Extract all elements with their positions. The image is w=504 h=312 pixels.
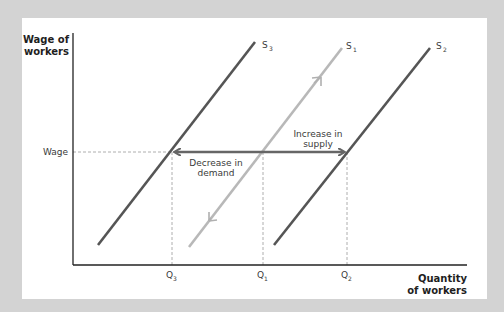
s1-letter: S	[346, 41, 352, 51]
y-axis-label-line1: Wage of	[23, 34, 70, 45]
s2-label: S 2	[436, 41, 447, 53]
q3-tick-label: Q 3	[166, 270, 177, 282]
wage-tick-label: Wage	[43, 147, 69, 157]
s3-subscript: 3	[269, 45, 273, 52]
q1-subscript: 1	[264, 275, 268, 282]
q1-tick-label: Q 1	[257, 270, 268, 282]
decrease-demand-label-line1: Decrease in	[189, 158, 242, 168]
x-axis-label-line2: of workers	[407, 285, 467, 296]
increase-supply-label-line2: supply	[303, 139, 333, 149]
decrease-demand-label-line2: demand	[198, 168, 235, 178]
s2-subscript: 2	[443, 46, 447, 53]
supply-curve-s3	[98, 42, 255, 245]
s2-letter: S	[436, 41, 442, 51]
increase-supply-label-line1: Increase in	[293, 129, 342, 139]
s1-subscript: 1	[353, 46, 357, 53]
q2-subscript: 2	[348, 275, 352, 282]
q2-tick-label: Q 2	[341, 270, 352, 282]
q3-subscript: 3	[173, 275, 177, 282]
s3-label: S 3	[262, 40, 273, 52]
supply-curve-s2	[274, 48, 430, 245]
x-axis-label-line1: Quantity	[418, 273, 467, 284]
s3-letter: S	[262, 40, 268, 50]
s1-label: S 1	[346, 41, 357, 53]
supply-shift-chart: Wage of workers Quantity of workers Wage…	[0, 0, 504, 312]
y-axis-label-line2: workers	[24, 46, 69, 57]
